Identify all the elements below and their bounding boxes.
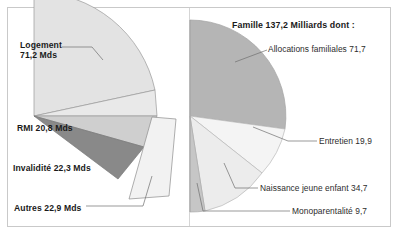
- label-logement-line2: 71,2 Mds: [20, 50, 62, 60]
- label-logement-line1: Logement: [20, 40, 62, 50]
- left-pie: [34, 0, 176, 206]
- label-allocations-familiales: Allocations familiales 71,7: [268, 45, 366, 55]
- slice-allocations-familiales: [190, 20, 286, 129]
- label-autres: Autres 22,9 Mds: [14, 203, 81, 213]
- label-naissance-jeune-enfant: Naissance jeune enfant 34,7: [260, 184, 368, 194]
- label-monoparentalite: Monoparentalité 9,7: [292, 207, 367, 217]
- label-logement: Logement 71,2 Mds: [20, 40, 62, 60]
- right-panel-title: Famille 137,2 Milliards dont :: [232, 20, 355, 30]
- label-invalidite: Invalidité 22,3 Mds: [13, 163, 91, 173]
- figure-root: Logement 71,2 Mds RMI 20,8 Mds Invalidit…: [0, 0, 399, 236]
- pie-graphics: [0, 0, 399, 236]
- label-entretien: Entretien 19,9: [319, 137, 372, 147]
- label-rmi: RMI 20,8 Mds: [17, 123, 73, 133]
